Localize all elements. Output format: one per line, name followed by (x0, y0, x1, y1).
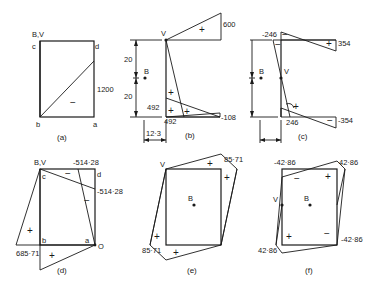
label-b: B (144, 67, 149, 76)
label-origin: B,V (32, 30, 44, 39)
value-600: 600 (223, 20, 236, 29)
sign-minus-bottom: − (324, 228, 330, 239)
label-b: B (304, 194, 309, 203)
label-d: d (95, 42, 99, 51)
sign-minus-top: − (282, 29, 288, 40)
caption-b: (b) (185, 131, 195, 140)
dim-width: 12·3 (146, 129, 161, 138)
value-42-top-right: 42·86 (339, 158, 358, 167)
caption-e: (e) (187, 266, 197, 275)
sign-minus-web: − (275, 39, 281, 50)
label-origin: B,V (34, 158, 46, 167)
sign-minus-bottom: − (327, 115, 333, 126)
value-neg42-top-left: -42·86 (274, 158, 296, 167)
label-v: V (161, 29, 166, 38)
sign-plus-left: + (27, 225, 33, 236)
label-a: a (93, 120, 98, 129)
sign-plus-top: + (325, 171, 331, 182)
shear-center-point (259, 76, 262, 79)
caption-a: (a) (57, 133, 67, 142)
panel-e: V B 85·71 85·71 + + + + (e) (142, 154, 243, 275)
caption-d: (d) (57, 266, 67, 275)
sign-plus-bottom: + (173, 247, 179, 258)
value-42-bottom-left: 42·86 (258, 246, 277, 255)
dim-lower: 20 (124, 92, 132, 101)
value-neg108: -108 (221, 113, 236, 122)
sign-plus-bottom-a: + (168, 105, 174, 116)
label-d: d (97, 170, 101, 179)
value-1200: 1200 (97, 85, 114, 94)
label-a: a (85, 236, 90, 245)
value-492-left: 492 (147, 103, 160, 112)
value-354: 354 (338, 39, 351, 48)
sign-minus-right: − (84, 195, 90, 206)
caption-f: (f) (305, 266, 313, 275)
sign-plus-bottom-b: + (184, 106, 190, 117)
shear-center-point (143, 76, 146, 79)
shear-flow-diagram: B,V c d b a 1200 − (a) (0, 0, 376, 288)
sign-plus-web: + (293, 101, 299, 112)
sign-plus-bottom: + (49, 250, 55, 261)
label-b: b (36, 120, 40, 129)
caption-c: (c) (298, 132, 308, 141)
panel-d: B,V c d b a O -514·28 -514·28 685·71 − −… (16, 158, 123, 275)
sign-plus-right: + (224, 172, 230, 183)
value-685: 685·71 (16, 249, 39, 258)
value-neg514-top: -514·28 (73, 158, 99, 167)
label-b: B (188, 194, 193, 203)
value-neg42-bottom-right: -42·86 (341, 235, 363, 244)
shear-flow-outline (150, 154, 237, 260)
label-o: O (98, 242, 104, 251)
label-c: c (32, 42, 36, 51)
sign-minus-top: − (65, 168, 71, 179)
value-neg514-right: -514·28 (97, 187, 123, 196)
panel-b: V B 20 20 12·3 600 492 492 -108 + + + + … (124, 13, 236, 143)
top-flange-distribution (166, 13, 221, 40)
label-b: b (42, 236, 46, 245)
value-246: 246 (286, 118, 299, 127)
value-85-bottom: 85·71 (142, 246, 161, 255)
distribution-diagonal (40, 61, 94, 117)
section-rectangle (166, 169, 221, 245)
shear-center-point (192, 203, 195, 206)
sign-plus-top: + (207, 158, 213, 169)
value-85-top: 85·71 (224, 155, 243, 164)
panel-c: V B -246 354 246 -354 − + − + − (c) (249, 29, 353, 143)
value-neg354: -354 (338, 116, 353, 125)
value-neg246: -246 (262, 30, 277, 39)
sign-plus-top: + (199, 24, 205, 35)
sign-plus-top: + (326, 38, 332, 49)
dim-upper: 20 (124, 55, 132, 64)
shear-center-point (308, 203, 311, 206)
label-v: V (284, 67, 289, 76)
sign-plus-web: + (168, 87, 174, 98)
panel-f: V B -42·86 42·86 -42·86 42·86 − + + − (f… (258, 158, 363, 275)
label-v: V (273, 195, 278, 204)
panel-a: B,V c d b a 1200 − (a) (32, 30, 114, 142)
sign-minus: − (70, 97, 76, 108)
label-v: V (160, 160, 165, 169)
sign-minus-top: − (294, 173, 300, 184)
label-b: B (259, 67, 264, 76)
label-c: c (42, 172, 46, 181)
sign-plus-bottom: + (286, 231, 292, 242)
sign-plus-left: + (154, 231, 160, 242)
value-492-bottom: 492 (164, 117, 177, 126)
section-rectangle (40, 41, 94, 117)
